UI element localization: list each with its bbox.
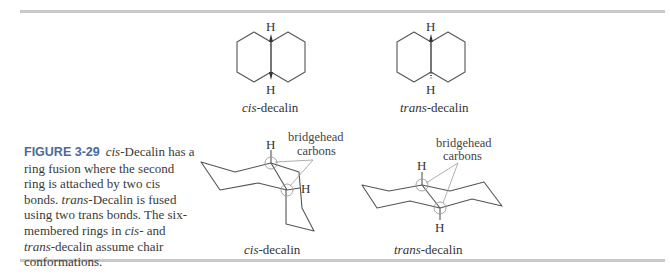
h-label: H [435,220,444,235]
h-label: H [417,158,426,173]
carbons-annotation: carbons [297,144,336,158]
h-label: H [426,82,435,97]
h-label: H [266,137,275,152]
h-label: H [266,82,275,97]
wedge-bond-icon [429,34,433,42]
trans-decalin-label: trans-decalin [400,100,469,115]
bridgehead-annotation: bridgehead [288,130,344,144]
h-label: H [266,19,275,34]
cis-decalin-chair-label: cis-decalin [244,242,301,257]
structures-diagram: H H cis-decalin H H trans-decalin H H br… [0,0,670,274]
hashed-bond-icon [430,73,433,78]
wedge-bond-icon [269,34,273,42]
wedge-bond-icon [269,72,273,80]
bridgehead-annotation: bridgehead [436,136,492,150]
trans-decalin-chair-structure [362,163,502,220]
cis-decalin-chair-structure [201,150,314,231]
cis-decalin-label: cis-decalin [242,100,299,115]
carbons-annotation: carbons [443,149,482,163]
h-label: H [301,181,310,196]
trans-decalin-chair-label: trans-decalin [394,242,463,257]
h-label: H [426,19,435,34]
